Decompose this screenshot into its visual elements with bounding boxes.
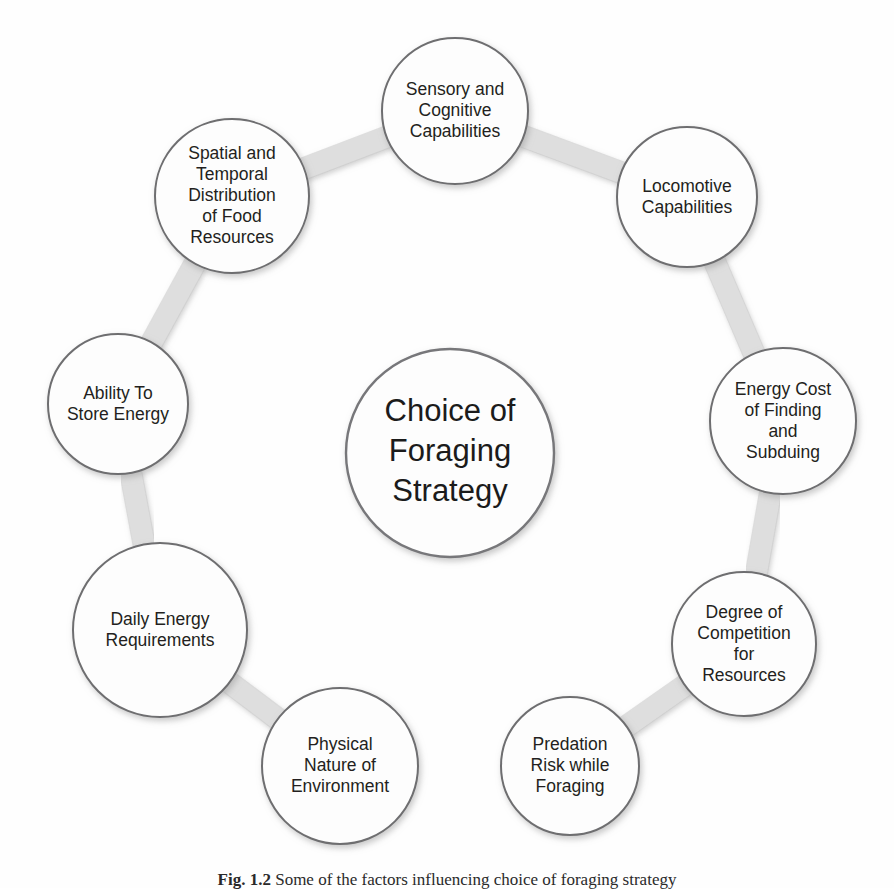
node-daily-energy-requirements[interactable]: Daily EnergyRequirements [73, 543, 247, 717]
node-label: LocomotiveCapabilities [642, 175, 733, 216]
node-label-line: and [768, 420, 797, 440]
center-label: Choice ofForagingStrategy [385, 393, 516, 508]
node-label-line: Store Energy [67, 403, 169, 423]
center-node[interactable]: Choice ofForagingStrategy [346, 349, 554, 557]
node-label-line: Capabilities [410, 121, 501, 141]
node-label-line: of Finding [745, 399, 822, 419]
connector-band [521, 135, 625, 173]
connector-band [756, 490, 771, 576]
center-label-line: Choice of [385, 393, 516, 428]
node-label: PredationRisk whileForaging [531, 734, 610, 796]
node-label-line: Temporal [196, 164, 268, 184]
node-label-line: Ability To [83, 382, 153, 402]
node-spatial-and-temporal-distribution-of-food-resources[interactable]: Spatial andTemporalDistributionof FoodRe… [155, 119, 309, 273]
node-label-line: Foraging [535, 776, 604, 796]
node-locomotive-capabilities[interactable]: LocomotiveCapabilities [617, 127, 757, 267]
node-label-line: Spatial and [188, 143, 276, 163]
connector-daily-energy-requirements-to-ability-to-store-energy [130, 470, 144, 548]
node-label-line: Predation [533, 734, 608, 754]
node-label: Spatial andTemporalDistributionof FoodRe… [188, 143, 276, 247]
node-label-line: Environment [291, 776, 389, 796]
node-label-line: Physical [307, 734, 372, 754]
node-predation-risk-while-foraging[interactable]: PredationRisk whileForaging [501, 697, 639, 835]
figure-caption-number: Fig. 1.2 [218, 870, 271, 889]
connector-locomotive-capabilities-to-energy-cost-of-finding-and-subduing [713, 259, 755, 357]
connector-band [624, 684, 687, 728]
connector-ability-to-store-energy-to-spatial-and-temporal-distribution-of-food-resources [150, 261, 196, 345]
node-label-line: Nature of [304, 755, 376, 775]
connector-band [150, 261, 196, 345]
node-label-line: for [734, 643, 755, 663]
node-label-line: Subduing [746, 441, 820, 461]
connector-physical-nature-of-environment-to-daily-energy-requirements [227, 681, 280, 721]
node-label-line: Resources [190, 227, 274, 247]
node-physical-nature-of-environment[interactable]: PhysicalNature ofEnvironment [262, 688, 418, 844]
node-label-line: Risk while [531, 755, 610, 775]
node-energy-cost-of-finding-and-subduing[interactable]: Energy Costof FindingandSubduing [710, 348, 856, 494]
node-ability-to-store-energy[interactable]: Ability ToStore Energy [48, 334, 188, 474]
node-label-line: Locomotive [642, 175, 732, 195]
node-label-line: Sensory and [406, 79, 504, 99]
figure-caption: Fig. 1.2 Some of the factors influencing… [0, 870, 894, 890]
node-label: Daily EnergyRequirements [106, 608, 215, 649]
node-label-line: Daily Energy [110, 608, 209, 628]
center-node-group: Choice ofForagingStrategy [346, 349, 554, 557]
node-label-line: Distribution [188, 185, 276, 205]
connector-band [130, 470, 144, 548]
connector-sensory-and-cognitive-capabilities-to-locomotive-capabilities [521, 135, 625, 173]
connector-band [713, 259, 755, 357]
center-label-line: Strategy [392, 473, 508, 508]
connector-energy-cost-of-finding-and-subduing-to-degree-of-competition-for-resources [756, 490, 771, 576]
node-label-line: Requirements [106, 629, 215, 649]
node-label-line: Energy Cost [735, 378, 831, 398]
node-degree-of-competition-for-resources[interactable]: Degree ofCompetitionforResources [672, 572, 816, 716]
node-label-line: Cognitive [419, 100, 492, 120]
node-label-line: Resources [702, 664, 786, 684]
node-sensory-and-cognitive-capabilities[interactable]: Sensory andCognitiveCapabilities [382, 38, 528, 184]
node-label-line: Competition [697, 622, 790, 642]
center-label-line: Foraging [389, 433, 511, 468]
node-label: Sensory andCognitiveCapabilities [406, 79, 504, 141]
node-label-line: of Food [202, 206, 261, 226]
connector-degree-of-competition-for-resources-to-predation-risk-while-foraging [624, 684, 687, 728]
connector-spatial-and-temporal-distribution-of-food-resources-to-sensory-and-cognitive-capabilities [301, 136, 389, 170]
node-label-line: Capabilities [642, 196, 733, 216]
figure-caption-text: Some of the factors influencing choice o… [275, 870, 676, 889]
node-label-line: Degree of [706, 601, 783, 621]
